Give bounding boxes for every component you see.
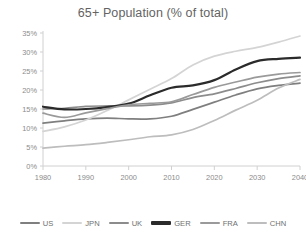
legend-swatch-icon xyxy=(151,221,171,224)
series-line-jpn xyxy=(43,36,300,131)
y-tick-label: 5% xyxy=(26,143,37,152)
chart-legend: USJPNUKGERFRACHN xyxy=(0,214,306,232)
plot-svg: 0%5%10%15%20%25%30%35% 19801990200020102… xyxy=(0,26,306,194)
legend-item-fra[interactable]: FRA xyxy=(200,219,238,228)
x-tick-label: 2040 xyxy=(292,173,306,182)
y-axis: 0%5%10%15%20%25%30%35% xyxy=(22,29,43,171)
series-lines xyxy=(43,36,300,148)
legend-item-jpn[interactable]: JPN xyxy=(62,219,99,228)
legend-swatch-icon xyxy=(200,222,220,225)
legend-label: FRA xyxy=(223,219,238,228)
series-line-uk xyxy=(43,76,300,109)
y-tick-label: 25% xyxy=(22,67,37,76)
y-tick-label: 35% xyxy=(22,29,37,38)
x-tick-label: 1990 xyxy=(78,173,94,182)
legend-swatch-icon xyxy=(247,222,267,225)
legend-swatch-icon xyxy=(109,222,129,225)
x-tick-label: 2030 xyxy=(249,173,265,182)
chart-title: 65+ Population (% of total) xyxy=(0,6,306,20)
y-tick-label: 10% xyxy=(22,124,37,133)
x-tick-label: 2000 xyxy=(120,173,136,182)
legend-swatch-icon xyxy=(20,222,40,225)
legend-item-us[interactable]: US xyxy=(20,219,54,228)
x-tick-label: 1980 xyxy=(35,173,51,182)
x-tick-label: 2020 xyxy=(206,173,222,182)
x-tick-label: 2010 xyxy=(163,173,179,182)
legend-item-chn[interactable]: CHN xyxy=(247,219,286,228)
y-tick-label: 30% xyxy=(22,48,37,57)
legend-item-ger[interactable]: GER xyxy=(151,219,190,228)
legend-label: JPN xyxy=(85,219,99,228)
chart-container: 65+ Population (% of total) 0%5%10%15%20… xyxy=(0,0,306,238)
legend-label: GER xyxy=(174,219,190,228)
legend-item-uk[interactable]: UK xyxy=(109,219,143,228)
y-tick-label: 0% xyxy=(26,162,37,171)
x-axis: 1980199020002010202020302040 xyxy=(35,166,306,182)
legend-label: UK xyxy=(132,219,143,228)
legend-label: US xyxy=(43,219,54,228)
y-tick-label: 15% xyxy=(22,105,37,114)
plot-area: 0%5%10%15%20%25%30%35% 19801990200020102… xyxy=(0,26,306,194)
legend-label: CHN xyxy=(270,219,286,228)
y-tick-label: 20% xyxy=(22,86,37,95)
legend-swatch-icon xyxy=(62,222,82,225)
